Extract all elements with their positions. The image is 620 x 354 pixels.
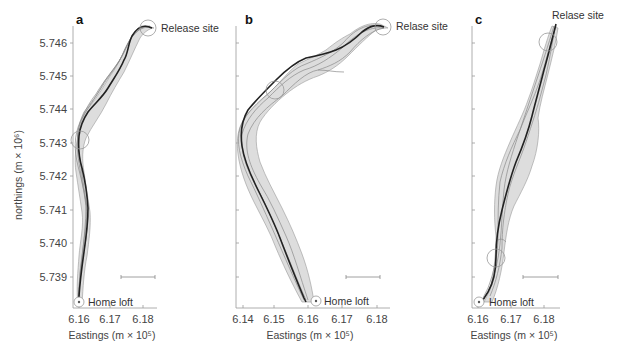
home-loft-dot [478,301,480,303]
figure-canvas: northings (m × 10⁶) a 5.746 5.745 5.744 … [0,0,620,354]
svg-text:5.741: 5.741 [39,204,67,216]
y-axis-label: northings (m × 10⁶) [12,130,24,220]
x-tick-labels: 6.16 6.17 6.18 [68,313,153,325]
svg-text:6.16: 6.16 [68,313,89,325]
release-site-label: Relase site [396,20,448,32]
panel-letter-c: c [475,12,482,27]
release-site-label: Relase site [552,9,604,21]
svg-text:5.743: 5.743 [39,137,67,149]
scale-bar [346,275,380,279]
home-loft-dot [78,301,80,303]
svg-text:6.17: 6.17 [331,313,352,325]
home-loft-label: Home loft [88,296,133,308]
svg-text:6.15: 6.15 [263,313,284,325]
panel-b: b 6.14 6.15 6.16 6.17 6.18 Eastings (m ×… [232,12,448,341]
svg-text:6.16: 6.16 [297,313,318,325]
individual-tracks [75,26,152,306]
panel-letter-a: a [76,12,84,27]
svg-text:6.17: 6.17 [99,313,120,325]
scale-bar [121,275,155,279]
svg-text:6.18: 6.18 [366,313,387,325]
svg-text:6.16: 6.16 [467,313,488,325]
svg-text:5.739: 5.739 [39,271,67,283]
panel-letter-b: b [245,12,253,27]
svg-text:6.18: 6.18 [533,313,554,325]
svg-text:5.742: 5.742 [39,170,67,182]
home-loft-dot [315,300,317,302]
y-tick-labels: 5.746 5.745 5.744 5.743 5.742 5.741 5.74… [39,37,67,283]
x-axis-label: Eastings (m × 10⁵) [69,329,156,341]
x-axis-label: Eastings (m × 10⁵) [267,329,354,341]
release-site-label: Release site [161,22,219,34]
panel-a: a 5.746 5.745 5.744 5.743 5.742 5.741 5.… [39,12,218,341]
y-ticks [70,43,73,277]
svg-text:6.14: 6.14 [232,313,253,325]
svg-text:6.17: 6.17 [500,313,521,325]
scale-bar [523,275,558,279]
svg-text:5.740: 5.740 [39,237,67,249]
x-tick-labels: 6.16 6.17 6.18 [467,313,554,325]
x-tick-labels: 6.14 6.15 6.16 6.17 6.18 [232,313,387,325]
x-axis-label: Eastings (m × 10⁵) [471,329,558,341]
svg-text:5.746: 5.746 [39,37,67,49]
home-loft-label: Home loft [489,296,534,308]
route-spread-area [484,26,558,302]
svg-text:5.744: 5.744 [39,103,67,115]
panel-c: c 6.16 6.17 6.18 Eastings (m × 10⁵) [467,9,604,341]
route-spread-area [237,23,388,302]
svg-text:5.745: 5.745 [39,70,67,82]
home-loft-label: Home loft [324,295,369,307]
y-ticks [472,43,475,277]
y-ticks [236,43,239,277]
svg-text:6.18: 6.18 [132,313,153,325]
